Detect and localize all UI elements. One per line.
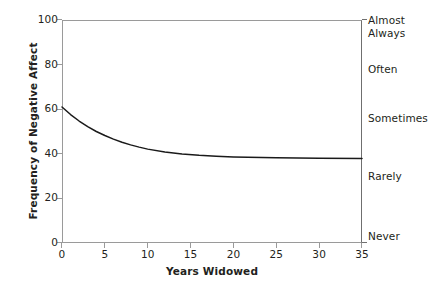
anchor-label: Sometimes: [368, 112, 428, 125]
anchor-label: Almost Always: [368, 14, 405, 39]
series-line-frequency-of-negative-affect: [62, 107, 362, 159]
secondary-axis-tick-mark: [362, 19, 367, 20]
x-tick-label: 5: [90, 248, 120, 260]
x-tick-label: 35: [347, 248, 377, 260]
anchor-label: Rarely: [368, 170, 402, 183]
y-tick-label: 0: [24, 237, 58, 248]
y-axis-title: Frequency of Negative Affect: [27, 21, 39, 241]
x-tick-label: 0: [47, 248, 77, 260]
x-tick-label: 25: [261, 248, 291, 260]
x-tick-label: 20: [218, 248, 248, 260]
secondary-axis-tick-mark: [362, 242, 367, 243]
chart-figure: Frequency of Negative Affect 02040608010…: [0, 0, 439, 295]
data-curve-layer: [62, 20, 362, 243]
x-tick-label: 30: [304, 248, 334, 260]
anchor-label: Never: [368, 230, 400, 243]
y-tick-label: 100: [24, 14, 58, 25]
x-axis-title: Years Widowed: [62, 265, 362, 277]
y-tick-label: 40: [24, 148, 58, 159]
x-tick-label: 10: [133, 248, 163, 260]
x-tick-label: 15: [176, 248, 206, 260]
y-tick-label: 80: [24, 59, 58, 70]
y-tick-label: 60: [24, 103, 58, 114]
anchor-label: Often: [368, 63, 398, 76]
y-tick-label: 20: [24, 192, 58, 203]
